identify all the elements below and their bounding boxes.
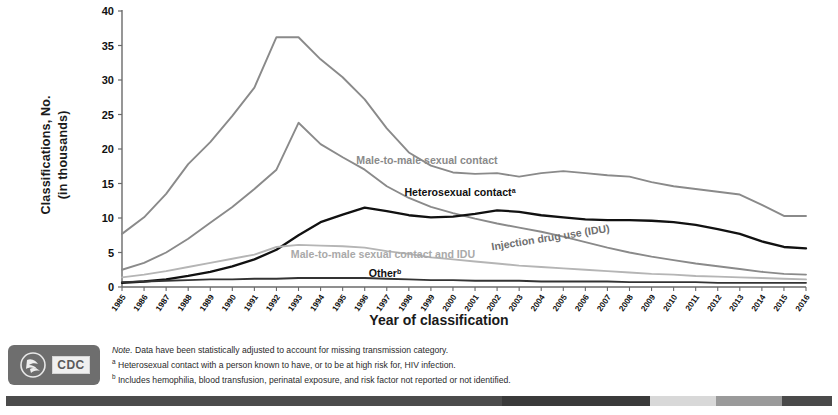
line-chart-svg: 0510152025303540198519861987198819891990… [0,0,838,330]
x-tick-label: 2002 [485,293,503,313]
x-tick-label: 2014 [750,293,768,313]
series-label-footnote-mark: b [397,268,401,275]
series-label-text: Male-to-male sexual contact and IDU [291,248,475,260]
footnote-note-lead: Note. [112,345,133,355]
x-tick-label: 2004 [529,293,547,313]
series-line-4 [122,278,806,283]
footnote-b-text: Includes hemophilia, blood transfusion, … [116,375,511,385]
cdc-wordmark: CDC [52,356,90,374]
footnote-note-text: Data have been statistically adjusted to… [133,345,449,355]
x-tick-label: 2003 [507,293,525,313]
y-axis-title-line2: (in thousands) [55,95,72,214]
x-tick-label: 1995 [330,293,348,313]
x-tick-label: 2016 [794,293,812,313]
x-tick-label: 2015 [772,293,790,313]
x-tick-label: 1991 [242,293,260,313]
chart-area: 0510152025303540198519861987198819891990… [0,0,838,330]
y-tick-label: 10 [102,212,114,224]
y-tick-label: 35 [102,40,114,52]
series-line-2 [122,208,806,283]
x-tick-label: 1990 [220,293,238,313]
series-label-3: Male-to-male sexual contact and IDU [291,248,475,260]
x-tick-label: 1987 [154,293,172,313]
y-tick-label: 40 [102,5,114,17]
y-tick-label: 15 [102,178,114,190]
x-tick-label: 2000 [441,293,459,313]
bottom-bar-segment-1 [502,396,651,406]
y-tick-label: 0 [108,281,114,293]
x-tick-label: 1996 [353,293,371,313]
x-tick-label: 1994 [308,293,326,313]
y-tick-label: 5 [108,247,114,259]
x-tick-label: 2009 [639,293,657,313]
series-label-1: Heterosexual contacta [404,186,515,198]
x-tick-label: 1999 [419,293,437,313]
x-tick-label: 2008 [617,293,635,313]
x-tick-label: 1986 [132,293,150,313]
y-axis-title: Classifications, No. (in thousands) [20,40,90,270]
bottom-bar-segment-4 [782,396,832,406]
bottom-color-bar [6,396,832,406]
x-tick-label: 1985 [110,293,128,313]
cdc-logo: CDC [8,345,100,385]
x-tick-label: 2006 [573,293,591,313]
bottom-bar-segment-2 [650,396,716,406]
x-tick-label: 2012 [706,293,724,313]
y-tick-label: 30 [102,74,114,86]
series-label-0: Male-to-male sexual contact [356,154,498,166]
x-axis-title: Year of classification [0,312,838,328]
series-label-4: Otherb [369,267,402,279]
x-tick-label: 1993 [286,293,304,313]
x-tick-label: 2001 [463,293,481,313]
footnote-b: b Includes hemophilia, blood transfusion… [112,372,712,387]
y-axis-title-line1: Classifications, No. [38,95,55,214]
x-tick-label: 1992 [264,293,282,313]
footnote-a: a Heterosexual contact with a person kno… [112,357,712,372]
y-tick-label: 25 [102,109,114,121]
footnotes-block: Note. Data have been statistically adjus… [112,344,712,388]
x-tick-label: 1997 [375,293,393,313]
series-line-0 [122,37,806,234]
bottom-bar-segment-0 [6,396,502,406]
footnote-a-text: Heterosexual contact with a person known… [116,360,456,370]
cdc-hiv-classification-figure: 0510152025303540198519861987198819891990… [0,0,838,415]
x-tick-label: 2010 [661,293,679,313]
x-tick-label: 2005 [551,293,569,313]
series-label-text: Heterosexual contacta [404,186,515,198]
x-tick-label: 1998 [397,293,415,313]
y-tick-label: 20 [102,143,114,155]
x-tick-label: 2007 [595,293,613,313]
x-tick-label: 2011 [684,293,702,313]
x-tick-label: 1989 [198,293,216,313]
x-tick-label: 1988 [176,293,194,313]
series-label-text: Otherb [369,267,402,279]
bottom-bar-segment-3 [716,396,782,406]
series-label-footnote-mark: a [512,187,516,194]
series-label-text: Male-to-male sexual contact [356,154,498,166]
footnote-note: Note. Data have been statistically adjus… [112,344,712,357]
x-tick-label: 2013 [728,293,746,313]
hhs-seal-icon [18,350,48,380]
